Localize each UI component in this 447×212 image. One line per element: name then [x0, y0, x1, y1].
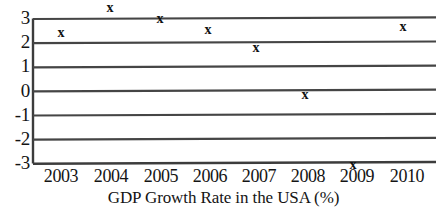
x-tick-label-2008: 2008 — [280, 165, 336, 187]
x-tick-label-2006: 2006 — [182, 165, 238, 187]
data-point-2004: x — [103, 1, 117, 15]
x-tick-label-2007: 2007 — [231, 165, 287, 187]
x-tick-label-2010: 2010 — [379, 165, 435, 187]
x-tick-label-2003: 2003 — [33, 165, 89, 187]
data-point-2007: x — [249, 41, 263, 55]
x-axis-labels: 2003 2004 2005 2006 2007 2008 2009 2010 — [32, 165, 436, 189]
chart-figure: 3 2 1 0 -1 -2 -3 x x x x x x x x 2003 20… — [0, 0, 447, 212]
data-point-2003: x — [54, 26, 68, 40]
data-point-2005: x — [153, 12, 167, 26]
x-axis-title: GDP Growth Rate in the USA (%) — [0, 188, 447, 208]
data-point-2008: x — [298, 88, 312, 102]
x-tick-label-2004: 2004 — [83, 165, 139, 187]
data-point-2010: x — [396, 20, 410, 34]
data-point-2006: x — [201, 23, 215, 37]
x-tick-label-2005: 2005 — [133, 165, 189, 187]
x-tick-label-2009: 2009 — [329, 165, 385, 187]
